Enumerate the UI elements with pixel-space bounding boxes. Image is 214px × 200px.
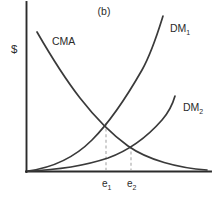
x-tick-label-e2: e2 bbox=[127, 178, 137, 191]
chart-figure: (b) $ CMA DM1 DM2 e1 e2 bbox=[0, 0, 214, 200]
x-tick-label-e2-subscript: 2 bbox=[133, 184, 137, 191]
curve-dm1 bbox=[28, 16, 163, 171]
curve-label-dm1-subscript: 1 bbox=[186, 29, 190, 36]
curve-label-dm1: DM1 bbox=[170, 22, 190, 36]
curve-label-dm2: DM2 bbox=[183, 101, 203, 115]
curve-label-dm1-text: DM bbox=[170, 22, 186, 34]
x-tick-label-e1: e1 bbox=[102, 178, 112, 191]
curve-label-cma: CMA bbox=[52, 35, 75, 47]
chart-canvas: (b) $ CMA DM1 DM2 e1 e2 bbox=[0, 0, 214, 200]
y-axis-label: $ bbox=[11, 43, 18, 55]
curve-label-dm2-text: DM bbox=[183, 101, 199, 113]
x-tick-label-e1-subscript: 1 bbox=[108, 184, 112, 191]
panel-label: (b) bbox=[98, 5, 111, 17]
curve-label-dm2-subscript: 2 bbox=[199, 108, 203, 115]
curve-dm2 bbox=[28, 96, 175, 171]
